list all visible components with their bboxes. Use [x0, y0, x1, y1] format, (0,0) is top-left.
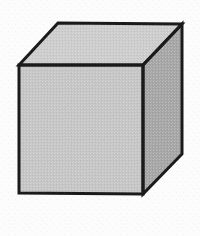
cube-figure-canvas: [0, 0, 200, 236]
paper-grain-overlay: [0, 0, 200, 236]
cube-drawing: [0, 0, 200, 236]
